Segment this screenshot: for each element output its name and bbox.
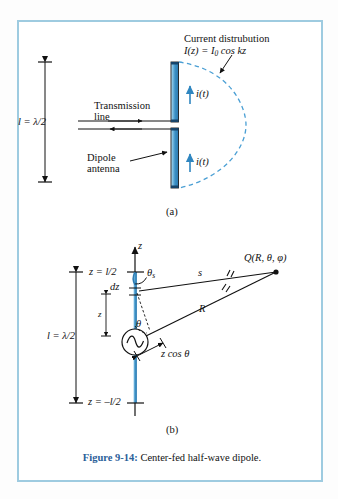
- panel-a-graphics: [38, 55, 246, 188]
- panel-b-height-label: z: [98, 309, 102, 319]
- panel-b-z-dimension: [101, 294, 111, 336]
- point-Q-label: Q(R, θ, φ): [244, 252, 286, 264]
- panel-b-length-label: l = λ/2: [47, 330, 75, 342]
- current-distribution-equation: I(z) = I0 cos kz: [184, 45, 246, 59]
- figure-caption: Figure 9-14: Center-fed half-wave dipole…: [32, 452, 312, 463]
- panel-b-bottom-coordinate: z = –l/2: [88, 396, 121, 408]
- current-arrow-label-lower: i(t): [196, 156, 209, 168]
- theta-s-label: θs: [147, 267, 155, 281]
- figure-number: Figure 9-14:: [83, 452, 138, 463]
- z-cos-theta-label: z cos θ: [161, 348, 190, 360]
- theta-s-subscript: s: [152, 271, 155, 280]
- figure-page: l = λ/2 Transmission line Dipole antenna…: [0, 0, 338, 499]
- transmission-line: [78, 121, 171, 129]
- panel-b-top-coordinate: z = l/2: [89, 266, 117, 278]
- current-eq-prefix: I(z) = I: [184, 45, 214, 56]
- segment-s-line: [139, 272, 276, 291]
- current-arrow-label-upper: i(t): [196, 88, 209, 100]
- panel-b-letter: (b): [166, 424, 178, 435]
- segment-R-label: R: [199, 303, 205, 315]
- dipole-rod-lower: [171, 128, 179, 188]
- segment-R-line: [146, 272, 276, 336]
- panel-a-letter: (a): [166, 206, 178, 217]
- theta-label: θ: [136, 318, 141, 330]
- panel-b-element-label: dz: [110, 281, 119, 293]
- panel-a-length-label: l = λ/2: [18, 116, 46, 128]
- panel-b-axis-label: z: [138, 240, 142, 252]
- figure-caption-text: Center-fed half-wave dipole.: [140, 452, 261, 463]
- dipole-label-leader: [130, 152, 167, 161]
- current-distribution-arc: [179, 62, 246, 188]
- transmission-line-label-line2: line: [94, 111, 110, 123]
- equal-length-ticks: [222, 270, 234, 292]
- current-eq-suffix: cos kz: [218, 45, 246, 56]
- point-Q-marker: [273, 269, 278, 274]
- current-distribution-title: Current distrubution: [184, 33, 269, 45]
- dipole-rod-upper: [171, 62, 179, 122]
- segment-s-label: s: [198, 267, 202, 279]
- dipole-antenna-label-line2: antenna: [87, 163, 120, 175]
